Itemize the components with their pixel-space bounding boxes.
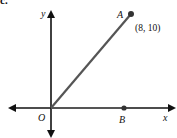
origin-label: O xyxy=(38,112,45,123)
point-b xyxy=(121,105,126,110)
part-label: c. xyxy=(0,0,8,6)
y-axis-label: y xyxy=(40,8,46,19)
segment-oa xyxy=(51,14,131,108)
point-b-label: B xyxy=(119,114,125,125)
coordinate-diagram: c. y x O A (8, 10) B xyxy=(0,0,177,138)
point-a-coordinates: (8, 10) xyxy=(135,23,160,34)
x-axis-label: x xyxy=(162,112,168,123)
point-a-label: A xyxy=(116,9,124,20)
point-a xyxy=(128,11,134,17)
